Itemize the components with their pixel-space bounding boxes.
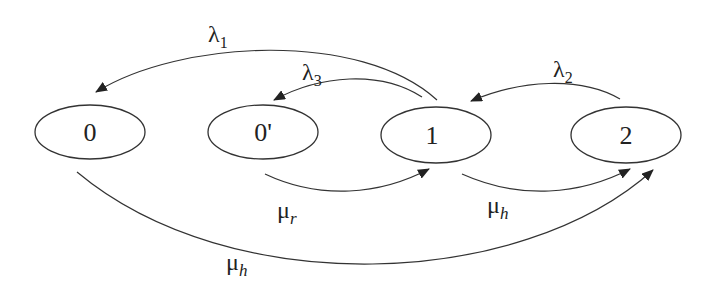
edge-label-mu-h-0-2: μh (226, 249, 247, 280)
edge-lambda2 (471, 83, 620, 101)
edge-lambda3 (274, 79, 422, 100)
edge-mu-r (265, 169, 429, 191)
state-diagram: 0 0' 1 2 λ1 λ3 λ2 μr μh μh (0, 0, 709, 291)
edge-label-lambda3: λ3 (302, 59, 322, 89)
edge-label-lambda1: λ1 (208, 21, 228, 51)
edge-label-mu-h-1-2: μh (487, 192, 508, 223)
state-node-0-prime: 0' (208, 105, 318, 159)
edge-mu-h-1-2 (462, 169, 630, 191)
state-label: 2 (620, 121, 633, 150)
state-node-2: 2 (571, 107, 681, 163)
edge-mu-h-0-2 (77, 170, 653, 264)
edge-lambda1 (96, 50, 437, 100)
state-label: 0 (84, 118, 97, 147)
state-node-0: 0 (35, 105, 145, 159)
edge-label-mu-r: μr (277, 197, 297, 228)
state-node-1: 1 (381, 107, 491, 163)
state-label: 0' (254, 118, 272, 147)
state-label: 1 (426, 121, 439, 150)
edge-label-lambda2: λ2 (553, 56, 573, 86)
